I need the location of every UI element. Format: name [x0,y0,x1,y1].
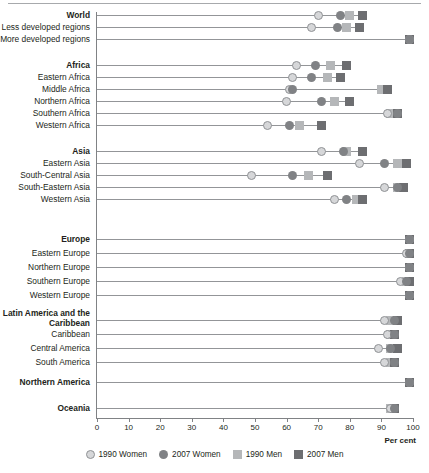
marker-1990-women [288,73,297,82]
x-tick-label: 70 [303,423,333,432]
chart-row: Caribbean [0,327,429,341]
marker-2007-women [390,404,399,413]
legend-label: 2007 Women [172,450,221,459]
marker-2007-men [402,159,411,168]
marker-1990-men [393,159,402,168]
row-label-central-america: Central America [0,341,90,355]
x-tick-label: 30 [177,423,207,432]
x-tick [318,418,319,422]
legend-item-1990-women[interactable]: 1990 Women [86,450,148,459]
marker-2007-men [323,171,332,180]
chart-row: Western Africa [0,118,429,132]
marker-2007-women [336,11,345,20]
marker-2007-women [402,277,411,286]
marker-1990-women [263,121,272,130]
x-tick-label: 0 [82,423,112,432]
row-connector-line [97,281,410,282]
chart-row: Europe [0,232,429,246]
x-tick [381,418,382,422]
marker-1990-men [295,121,304,130]
x-tick [223,418,224,422]
row-connector-line [97,187,404,188]
row-connector-line [97,320,397,321]
row-label-latin-america-and-the-caribbean: Latin America and the Caribbean [0,309,90,328]
x-axis-title: Per cent [384,436,416,445]
legend-item-1990-men[interactable]: 1990 Men [233,450,282,459]
marker-2007-women [390,358,399,367]
marker-2007-men [358,147,367,156]
row-connector-line [97,295,410,296]
x-tick [160,418,161,422]
marker-2007-women [307,73,316,82]
marker-2007-women [405,235,414,244]
row-connector-line [97,27,359,28]
legend-item-2007-men[interactable]: 2007 Men [294,450,343,459]
marker-1990-women [307,23,316,32]
marker-2007-women [288,85,297,94]
row-connector-line [97,113,397,114]
x-tick [413,418,414,422]
row-connector-line [97,39,410,40]
row-label-oceania: Oceania [0,401,90,415]
row-connector-line [97,89,388,90]
chart-row: Eastern Europe [0,246,429,260]
marker-2007-women [380,159,389,168]
row-connector-line [97,267,410,268]
marker-1990-women [330,195,339,204]
row-connector-line [97,362,394,363]
x-tick-label: 100 [398,423,428,432]
row-label-western-europe: Western Europe [0,288,90,302]
row-label-south-america: South America [0,355,90,369]
row-label-more-developed-regions: More developed regions [0,32,90,46]
x-tick-label: 20 [145,423,175,432]
marker-2007-women [390,316,399,325]
row-connector-line [97,239,410,240]
chart-container: WorldLess developed regionsMore develope… [0,0,429,473]
marker-2007-women [342,195,351,204]
marker-2007-men [317,121,326,130]
circle-marker-icon [86,450,95,459]
marker-1990-men [342,23,351,32]
marker-2007-women [288,171,297,180]
marker-1990-women [317,147,326,156]
row-connector-line [97,253,410,254]
marker-2007-men [355,23,364,32]
legend-label: 1990 Women [99,450,148,459]
marker-2007-women [405,291,414,300]
marker-1990-women [314,11,323,20]
x-tick [129,418,130,422]
chart-row: Western Asia [0,192,429,206]
marker-1990-women [282,97,291,106]
marker-1990-men [326,61,335,70]
row-label-eastern-europe: Eastern Europe [0,246,90,260]
chart-row: Western Europe [0,288,429,302]
marker-1990-women [380,358,389,367]
x-tick-label: 50 [240,423,270,432]
x-tick [350,418,351,422]
row-connector-line [97,77,340,78]
marker-2007-women [311,61,320,70]
row-connector-line [97,101,350,102]
chart-row: More developed regions [0,32,429,46]
row-connector-line [97,348,397,349]
row-connector-line [97,408,394,409]
x-tick-label: 60 [272,423,302,432]
marker-2007-women [333,23,342,32]
x-tick-label: 10 [114,423,144,432]
marker-2007-women [405,263,414,272]
row-label-southern-europe: Southern Europe [0,274,90,288]
marker-1990-women [374,344,383,353]
marker-2007-women [317,97,326,106]
marker-2007-women [285,121,294,130]
legend-item-2007-women[interactable]: 2007 Women [159,450,221,459]
row-label-western-africa: Western Africa [0,118,90,132]
chart-row: Southern Europe [0,274,429,288]
marker-2007-women [339,147,348,156]
x-tick-label: 80 [335,423,365,432]
marker-1990-women [355,159,364,168]
chart-row: South America [0,355,429,369]
chart-row: Northern Europe [0,260,429,274]
row-connector-line [97,334,394,335]
chart-row: Oceania [0,401,429,415]
marker-1990-women [380,316,389,325]
